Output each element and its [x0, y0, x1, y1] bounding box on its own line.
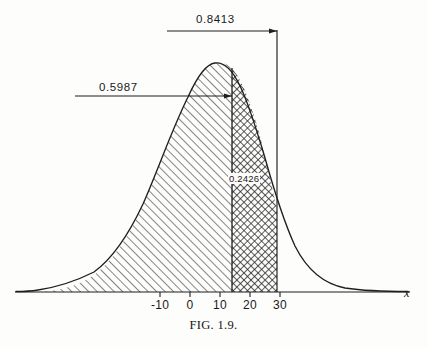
annotation-label-lower: 0.5987 — [99, 81, 138, 93]
normal-curve-plot — [0, 0, 427, 347]
x-axis-ticks — [160, 292, 280, 297]
x-tick-label-1: 0 — [187, 298, 194, 312]
x-axis-label: x — [404, 286, 410, 301]
region-diagonal-hatch — [38, 63, 238, 292]
annotation-label-upper: 0.8413 — [196, 13, 235, 25]
x-tick-label-4: 30 — [273, 298, 287, 312]
x-tick-label-3: 20 — [243, 298, 257, 312]
figure-container: 0.8413 0.5987 0.2426 -10 0 10 20 30 x FI… — [0, 0, 427, 347]
dimension-line-upper — [167, 28, 277, 33]
x-tick-label-0: -10 — [151, 298, 169, 312]
annotation-label-inner: 0.2426 — [228, 173, 260, 184]
x-tick-label-2: 10 — [213, 298, 227, 312]
figure-caption: FIG. 1.9. — [0, 318, 427, 333]
